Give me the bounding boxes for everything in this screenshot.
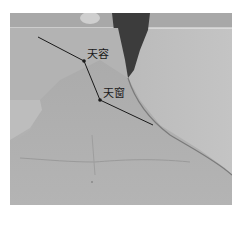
acupoint-label-tianrong: 天容 [87,49,109,60]
neck-illustration [10,13,232,205]
neck-photo [10,13,232,205]
acupoint-label-tianchuang: 天窗 [103,88,125,99]
